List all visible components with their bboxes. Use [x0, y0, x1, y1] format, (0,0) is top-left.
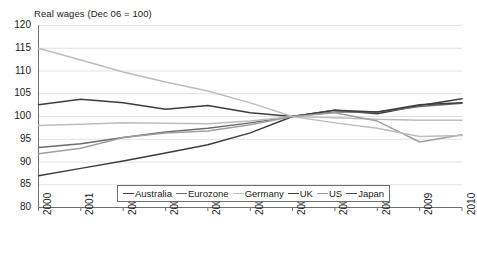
y-tick-label: 80 — [3, 202, 31, 212]
legend-label: Australia — [135, 188, 172, 199]
legend-swatch-icon — [288, 193, 299, 194]
x-tick-label: 2001 — [85, 192, 95, 214]
x-tick-label: 2000 — [43, 192, 53, 214]
legend-label: US — [329, 188, 342, 199]
legend-item-eurozone[interactable]: Eurozone — [172, 188, 229, 199]
y-tick-label: 110 — [3, 66, 31, 76]
legend-swatch-icon — [317, 193, 328, 194]
chart-legend: AustraliaEurozoneGermanyUKUSJapan — [117, 185, 390, 202]
legend-item-japan[interactable]: Japan — [342, 188, 384, 199]
legend-swatch-icon — [176, 193, 187, 194]
legend-swatch-icon — [233, 193, 244, 194]
x-tick-label: 2009 — [424, 192, 434, 214]
legend-label: Germany — [245, 188, 284, 199]
legend-swatch-icon — [346, 193, 357, 194]
legend-swatch-icon — [123, 193, 134, 194]
y-tick-label: 105 — [3, 88, 31, 98]
y-tick-label: 120 — [3, 20, 31, 30]
legend-item-australia[interactable]: Australia — [123, 188, 172, 199]
legend-item-uk[interactable]: UK — [284, 188, 313, 199]
legend-item-us[interactable]: US — [313, 188, 342, 199]
legend-label: Japan — [358, 188, 384, 199]
y-tick-label: 115 — [3, 43, 31, 53]
legend-label: Eurozone — [188, 188, 229, 199]
legend-label: UK — [300, 188, 313, 199]
y-tick-label: 95 — [3, 134, 31, 144]
y-tick-label: 90 — [3, 157, 31, 167]
legend-item-germany[interactable]: Germany — [229, 188, 284, 199]
y-tick-label: 85 — [3, 179, 31, 189]
y-tick-label: 100 — [3, 111, 31, 121]
x-tick-label: 2010 — [467, 192, 477, 214]
